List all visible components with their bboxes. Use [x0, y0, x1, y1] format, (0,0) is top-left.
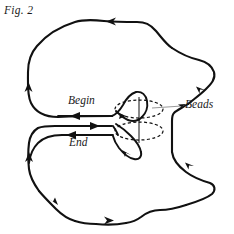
- bead-lower: [115, 120, 163, 143]
- label-begin: Begin: [68, 95, 95, 107]
- arrowhead-icon: [90, 122, 100, 130]
- label-end: End: [69, 137, 88, 149]
- curve-segment-top: [104, 21, 172, 48]
- inner-strand-bottom-join: [29, 135, 62, 163]
- label-beads: Beads: [185, 99, 213, 111]
- loop-diagram-svg: [0, 0, 234, 234]
- arrowhead-group: [25, 18, 206, 225]
- beads-leader-line: [152, 106, 182, 108]
- curve-segment-bottom-left: [39, 191, 75, 221]
- bead-group: [115, 97, 163, 143]
- outer-curve-lower: [28, 126, 186, 225]
- arrowhead-icon: [70, 112, 80, 120]
- figure-caption: Fig. 2: [4, 5, 33, 17]
- curve-segment-bottom-right: [126, 205, 186, 223]
- curve-segment-bottom: [75, 221, 126, 225]
- arrowhead-icon: [104, 217, 114, 225]
- curve-segment-right-lower: [172, 152, 214, 205]
- arrowhead-icon: [185, 163, 194, 170]
- bead-threading-loops: [112, 92, 147, 159]
- curve-segment-upper-right: [172, 48, 214, 104]
- figure-canvas: Fig. 2 Begin End Beads: [0, 0, 234, 234]
- outer-curve-right-notch: [172, 121, 214, 205]
